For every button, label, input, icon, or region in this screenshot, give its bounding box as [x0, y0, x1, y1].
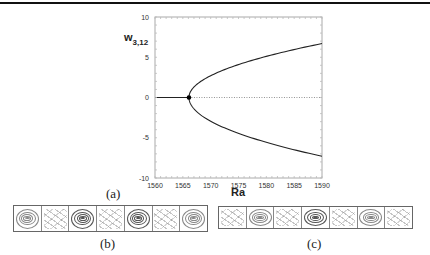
y-tick-label: 5	[145, 54, 149, 61]
contour-ring	[182, 209, 205, 229]
flow-pattern-panel-c	[218, 206, 413, 229]
contour-ring	[359, 209, 382, 226]
pattern-cell-roll-dark	[302, 207, 330, 228]
y-tick-label: -5	[143, 134, 149, 141]
contour-ring	[134, 216, 142, 221]
x-tick-label: 1565	[175, 182, 191, 189]
pattern-cell-disordered	[219, 207, 247, 228]
contour-ring	[16, 209, 39, 229]
contour-ring	[130, 212, 147, 225]
pattern-cell-disordered	[153, 206, 181, 231]
y-tick-label: 0	[145, 94, 149, 101]
contour-ring	[369, 216, 374, 218]
y-tick-label: -10	[139, 175, 149, 182]
contour-ring	[80, 217, 85, 219]
contour-ring	[137, 217, 139, 219]
flow-pattern-panel-b	[13, 205, 208, 232]
caption-c: (c)	[307, 236, 321, 252]
contour-ring	[304, 209, 327, 226]
disordered-contours	[221, 209, 244, 226]
pattern-cell-roll-dark	[125, 206, 153, 231]
disordered-contours	[154, 209, 177, 229]
contour-ring	[79, 216, 87, 221]
contour-ring	[310, 214, 322, 221]
caption-a: (a)	[106, 186, 120, 202]
contour-ring	[314, 216, 316, 218]
caption-b: (b)	[100, 236, 115, 252]
contour-ring	[136, 217, 141, 219]
contour-ring	[252, 212, 269, 223]
pattern-cell-roll-light	[14, 206, 42, 231]
contour-ring	[258, 216, 263, 218]
x-tick-label: 1570	[203, 182, 219, 189]
contour-ring	[249, 209, 272, 226]
contour-ring	[71, 209, 94, 229]
plot-series	[155, 44, 322, 157]
pattern-cell-disordered	[385, 207, 412, 228]
contour-ring	[307, 212, 324, 223]
disordered-contours	[387, 209, 410, 226]
contour-ring	[77, 214, 89, 222]
disordered-contours	[44, 209, 67, 229]
pattern-cell-roll-light	[358, 207, 386, 228]
contour-ring	[74, 212, 91, 225]
contour-ring	[25, 217, 30, 219]
contour-ring	[127, 209, 150, 229]
x-tick-label: 1585	[286, 182, 302, 189]
pattern-cell-disordered	[97, 206, 125, 231]
contour-ring	[137, 217, 139, 219]
series-line	[189, 98, 322, 157]
pattern-cell-roll-dark	[69, 206, 97, 231]
series-line	[189, 44, 322, 98]
pattern-cell-disordered	[330, 207, 358, 228]
contour-ring	[188, 214, 200, 222]
y-tick-label: 10	[141, 14, 149, 21]
contour-ring	[190, 216, 198, 221]
contour-ring	[191, 217, 196, 219]
contour-ring	[82, 217, 84, 219]
x-tick-label: 1580	[259, 182, 275, 189]
plot-ticks: 1560156515701575158015851590-10-50510	[139, 14, 330, 190]
pattern-cell-disordered	[274, 207, 302, 228]
disordered-contours	[276, 209, 299, 226]
x-tick-label: 1590	[314, 182, 330, 189]
x-tick-label: 1560	[147, 182, 163, 189]
pattern-cell-roll-light	[180, 206, 207, 231]
pattern-cell-roll-light	[247, 207, 275, 228]
bifurcation-chart: 1560156515701575158015851590-10-50510 Ra…	[0, 0, 430, 200]
bifurcation-point-marker	[187, 95, 192, 100]
x-axis-label: Ra	[231, 186, 246, 198]
disordered-contours	[99, 209, 122, 229]
contour-ring	[21, 214, 33, 222]
contour-ring	[312, 216, 320, 219]
contour-ring	[365, 214, 377, 221]
contour-ring	[314, 216, 316, 218]
contour-ring	[82, 217, 84, 219]
contour-ring	[367, 216, 375, 219]
y-axis-label: w3,12	[123, 31, 149, 47]
contour-ring	[23, 216, 31, 221]
contour-ring	[19, 212, 36, 225]
disordered-contours	[332, 209, 355, 226]
contour-ring	[256, 216, 264, 219]
contour-ring	[313, 216, 318, 218]
contour-ring	[132, 214, 144, 222]
contour-ring	[185, 212, 202, 225]
contour-ring	[254, 214, 266, 221]
pattern-cell-disordered	[42, 206, 70, 231]
contour-ring	[363, 212, 380, 223]
